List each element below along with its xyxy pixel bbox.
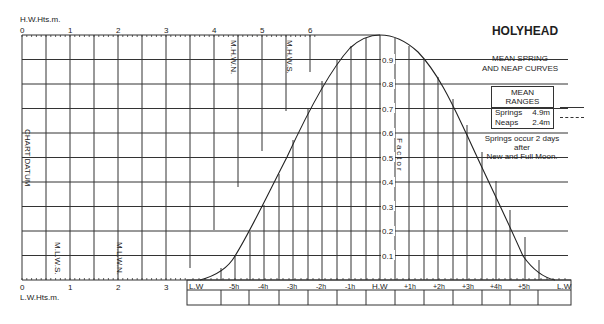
hw-tick-6: 6 — [308, 26, 313, 35]
factor-axis-label: Factor — [395, 138, 404, 173]
neaps-dashed-line-icon — [560, 117, 584, 118]
hw-tick-5: 5 — [260, 26, 265, 35]
time-tick-minus2: -2h — [316, 283, 326, 290]
time-tick-plus3: +3h — [462, 283, 474, 290]
mean-ranges-legend: MEAN RANGES Springs 4.9m Neaps 2.4m — [491, 86, 554, 129]
mlws-label: M.L.W.S. — [53, 242, 62, 274]
factor-tick-0.5: 0.5 — [382, 154, 394, 163]
hw-tick-3: 3 — [164, 26, 169, 35]
time-tick-minus5: -5h — [229, 283, 239, 290]
chart-datum-label: CHART DATUM — [23, 129, 32, 187]
subtitle-line-2: AND NEAP CURVES — [455, 64, 585, 74]
neaps-value: 2.4m — [532, 118, 550, 128]
lw-tick-1: 1 — [68, 283, 73, 292]
lw-tick-0: 0 — [20, 283, 25, 292]
factor-ticks: 0.9 0.8 0.7 0.6 0.5 0.4 0.3 0.2 0.1 — [381, 54, 395, 261]
lw-heights-label: L.W.Hts.m. — [20, 293, 59, 302]
factor-tick-0.1: 0.1 — [382, 252, 394, 261]
mlwn-label: M.L.W.N. — [115, 242, 124, 275]
springs-note: Springs occur 2 days after New and Full … — [462, 134, 582, 161]
hw-tick-1: 1 — [68, 26, 73, 35]
chart-subtitle: MEAN SPRING AND NEAP CURVES — [455, 54, 585, 74]
chart-title: HOLYHEAD — [470, 24, 580, 38]
time-tick-plus1: +1h — [404, 283, 416, 290]
tidal-curve-chart: H.W.Hts.m. 0 1 2 3 4 5 6 0 1 2 3 L.W.Hts… — [0, 0, 604, 324]
springs-solid-line-icon — [560, 107, 584, 108]
time-tick-minus1: -1h — [345, 283, 355, 290]
springs-value: 4.9m — [532, 108, 550, 118]
hw-heights-label: H.W.Hts.m. — [20, 15, 60, 24]
factor-tick-0.8: 0.8 — [382, 80, 394, 89]
legend-row-neaps: Neaps 2.4m — [492, 118, 553, 128]
subtitle-line-1: MEAN SPRING — [455, 54, 585, 64]
time-tick-minus4: -4h — [258, 283, 268, 290]
time-tick-plus4: +4h — [490, 283, 502, 290]
lw-tick-2: 2 — [116, 283, 121, 292]
time-tick-plus2: +2h — [433, 283, 445, 290]
hw-tick-4: 4 — [212, 26, 217, 35]
factor-tick-0.7: 0.7 — [382, 105, 394, 114]
hw-tick-0: 0 — [20, 26, 25, 35]
mhws-label: M.H.W.S. — [285, 40, 294, 74]
time-tick-minus3: -3h — [287, 283, 297, 290]
note-line-2: after — [462, 143, 582, 152]
factor-tick-0.2: 0.2 — [382, 227, 394, 236]
note-line-3: New and Full Moon. — [462, 152, 582, 161]
neaps-label: Neaps — [495, 118, 518, 128]
springs-label: Springs — [495, 108, 522, 118]
lw-tick-3: 3 — [164, 283, 169, 292]
time-tick-hw: H.W — [372, 282, 388, 291]
legend-row-springs: Springs 4.9m — [492, 108, 553, 118]
note-line-1: Springs occur 2 days — [462, 134, 582, 143]
factor-tick-0.4: 0.4 — [382, 178, 394, 187]
time-tick-lw-start: L.W — [189, 282, 204, 291]
factor-tick-0.6: 0.6 — [382, 129, 394, 138]
time-tick-lw-end: L.W — [557, 282, 572, 291]
time-tick-plus5: +5h — [518, 283, 530, 290]
mhwn-label: M.H.W.N. — [229, 40, 238, 74]
factor-tick-0.3: 0.3 — [382, 203, 394, 212]
mean-ranges-header: MEAN RANGES — [492, 87, 553, 108]
factor-tick-0.9: 0.9 — [382, 56, 394, 65]
hw-tick-2: 2 — [116, 26, 121, 35]
